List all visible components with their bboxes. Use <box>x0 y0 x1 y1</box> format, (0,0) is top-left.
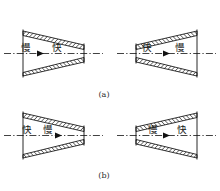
label-left-speed: 快 <box>22 124 32 135</box>
duct-flow-diagram: 慢 快 快 慢 (a) 快 慢 <box>0 0 220 191</box>
label-right-speed: 快 <box>177 124 187 135</box>
canvas-background <box>0 0 220 191</box>
label-right-speed: 快 <box>52 42 62 53</box>
caption-b: (b) <box>98 171 109 180</box>
label-right-speed: 慢 <box>43 124 53 135</box>
label-right-speed: 慢 <box>175 42 185 53</box>
caption-a: (a) <box>98 90 109 99</box>
figure-container: 慢 快 快 慢 (a) 快 慢 <box>0 0 220 191</box>
label-left-speed: 快 <box>142 42 152 53</box>
label-left-speed: 慢 <box>21 42 31 53</box>
label-left-speed: 慢 <box>148 124 158 135</box>
